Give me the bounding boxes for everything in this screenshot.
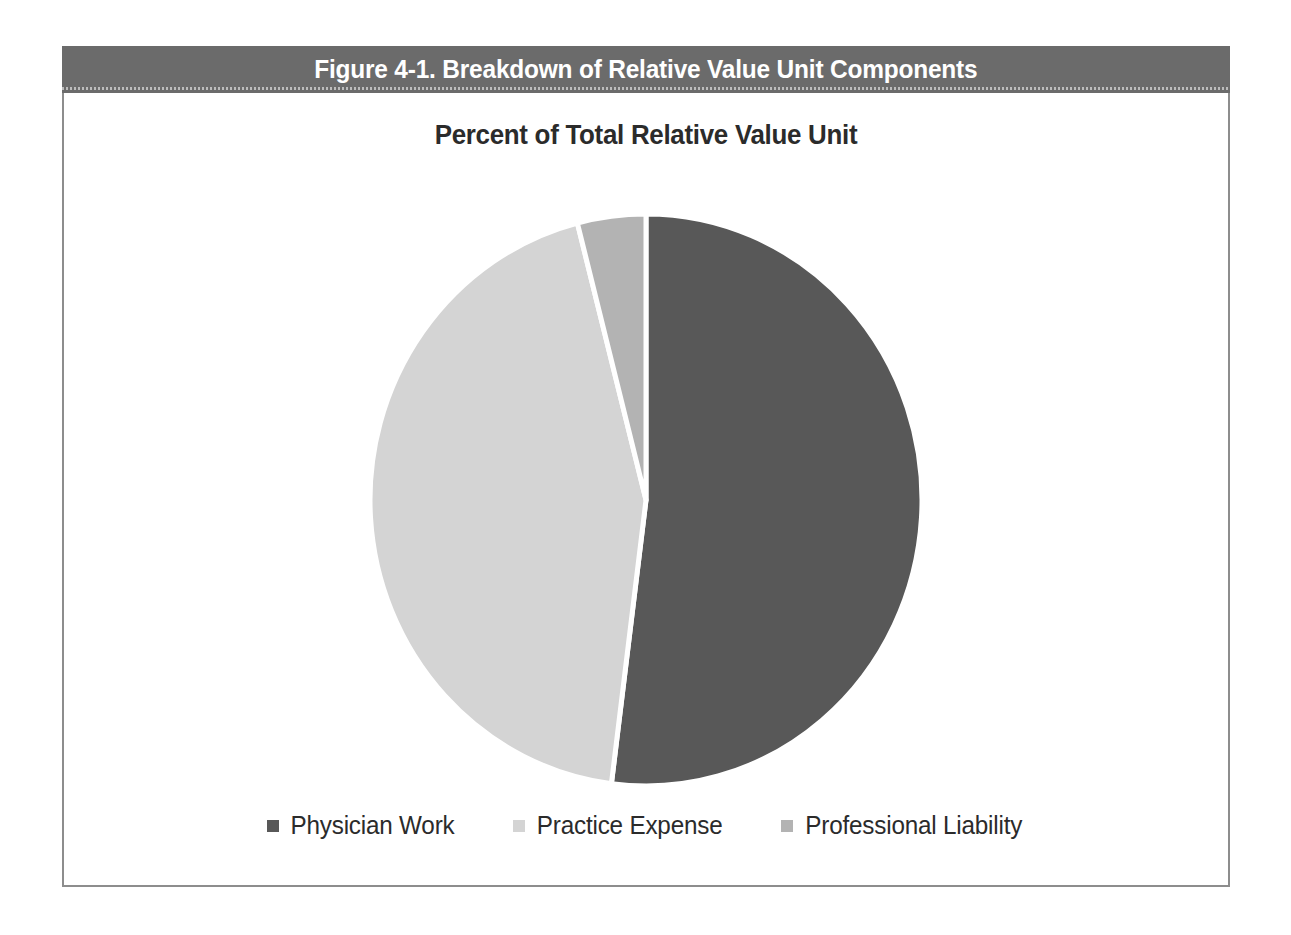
chart-title: Percent of Total Relative Value Unit <box>87 120 1204 151</box>
pie-slice <box>611 214 922 786</box>
figure-header-banner: Figure 4-1. Breakdown of Relative Value … <box>62 46 1230 93</box>
legend-label-physician-work: Physician Work <box>290 811 454 840</box>
legend-item-physician-work: Physician Work <box>267 811 457 840</box>
chart-legend: Physician Work Practice Expense Professi… <box>64 811 1228 840</box>
pie-chart <box>348 200 944 800</box>
square-marker-medium-icon <box>781 820 793 832</box>
pie-chart-svg <box>348 200 944 800</box>
square-marker-dark-icon <box>267 820 279 832</box>
figure-root: Figure 4-1. Breakdown of Relative Value … <box>0 0 1291 935</box>
legend-item-practice-expense: Practice Expense <box>513 811 725 840</box>
legend-label-professional-liability: Professional Liability <box>805 811 1022 840</box>
chart-body: Percent of Total Relative Value Unit Phy… <box>64 93 1228 885</box>
legend-label-practice-expense: Practice Expense <box>536 811 722 840</box>
legend-item-professional-liability: Professional Liability <box>781 811 1026 840</box>
square-marker-light-icon <box>513 820 525 832</box>
figure-caption: Figure 4-1. Breakdown of Relative Value … <box>314 54 977 85</box>
